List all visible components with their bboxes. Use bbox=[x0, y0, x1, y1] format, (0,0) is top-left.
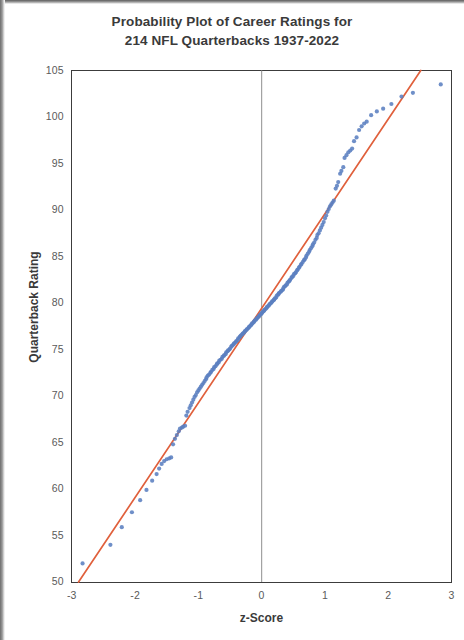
chart-title-line-2: 214 NFL Quarterbacks 1937-2022 bbox=[30, 31, 434, 50]
x-tick-label: -1 bbox=[183, 589, 213, 601]
scan-edge-top bbox=[0, 0, 464, 4]
x-tick-label: 3 bbox=[437, 589, 464, 601]
x-tick-label: -3 bbox=[57, 589, 87, 601]
y-tick-label: 100 bbox=[34, 110, 64, 122]
y-tick-label: 50 bbox=[34, 575, 64, 587]
x-tick-label: 0 bbox=[247, 589, 277, 601]
y-tick-label: 60 bbox=[34, 482, 64, 494]
y-tick-label: 80 bbox=[34, 296, 64, 308]
y-tick-label: 105 bbox=[34, 64, 64, 76]
y-tick-label: 75 bbox=[34, 343, 64, 355]
y-tick-label: 85 bbox=[34, 250, 64, 262]
y-tick-label: 70 bbox=[34, 389, 64, 401]
y-tick-label: 90 bbox=[34, 203, 64, 215]
x-axis-label: z-Score bbox=[71, 611, 452, 625]
figure-container: Probability Plot of Career Ratings for 2… bbox=[0, 0, 464, 640]
x-tick-label: -2 bbox=[120, 589, 150, 601]
y-tick-label: 65 bbox=[34, 436, 64, 448]
y-tick-label: 55 bbox=[34, 529, 64, 541]
x-tick-label: 1 bbox=[310, 589, 340, 601]
plot-area-frame bbox=[71, 70, 452, 583]
page-title: Probability Plot of Career Ratings for 2… bbox=[30, 12, 434, 50]
x-tick-label: 2 bbox=[373, 589, 403, 601]
chart-title-line-1: Probability Plot of Career Ratings for bbox=[112, 14, 353, 29]
scan-edge-left bbox=[0, 0, 5, 640]
y-tick-label: 95 bbox=[34, 157, 64, 169]
